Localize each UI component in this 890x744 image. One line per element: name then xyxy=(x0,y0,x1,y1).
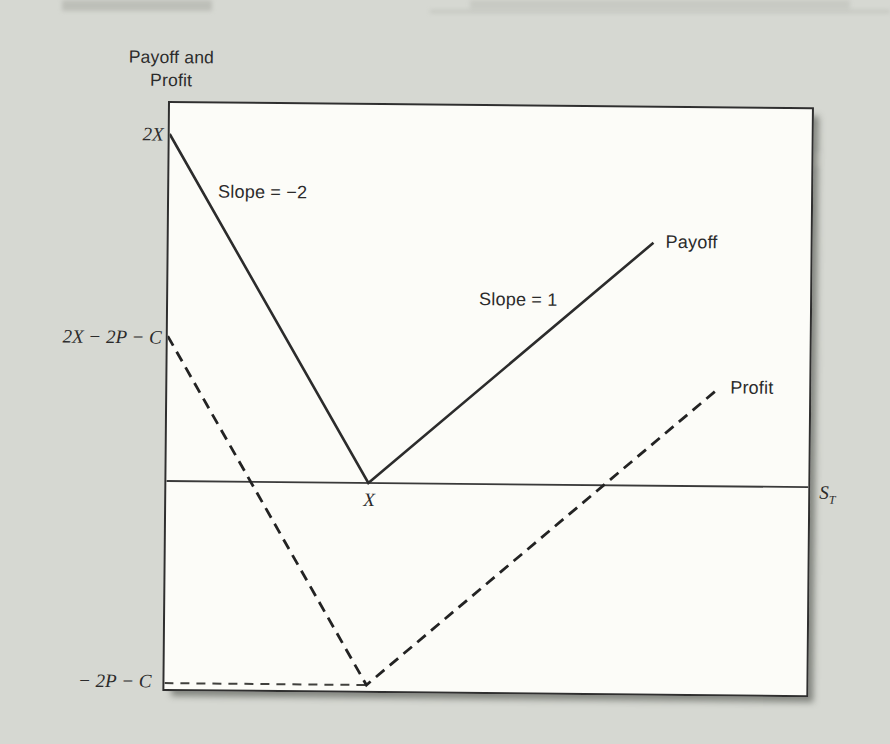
x-axis-label: ST xyxy=(819,482,835,504)
y-axis-title: Payoff and Profit xyxy=(128,46,214,93)
slope-left-annotation: Slope = −2 xyxy=(218,182,307,204)
min-profit-guide-line xyxy=(164,683,366,685)
y-axis-title-line1: Payoff and xyxy=(129,46,215,70)
x-axis-subscript: T xyxy=(829,493,836,507)
y-axis-title-line2: Profit xyxy=(128,69,214,93)
x-tick-strike: X xyxy=(363,489,375,511)
slope-right-annotation: Slope = 1 xyxy=(479,289,558,311)
profit-line xyxy=(164,336,719,688)
y-tick-neg2p-c: − 2P − C xyxy=(78,670,152,693)
profit-line-label: Profit xyxy=(730,377,773,398)
payoff-line-label: Payoff xyxy=(666,232,718,253)
y-tick-2x: 2X xyxy=(142,123,163,145)
figure: Payoff and Profit 2X 2X − 2P − C − 2P − … xyxy=(0,0,890,744)
horizontal-axis-line xyxy=(166,481,808,487)
scanned-page: Payoff and Profit 2X 2X − 2P − C − 2P − … xyxy=(0,0,890,744)
y-tick-2x-2p-c: 2X − 2P − C xyxy=(62,326,161,349)
x-axis-var: S xyxy=(819,482,829,503)
